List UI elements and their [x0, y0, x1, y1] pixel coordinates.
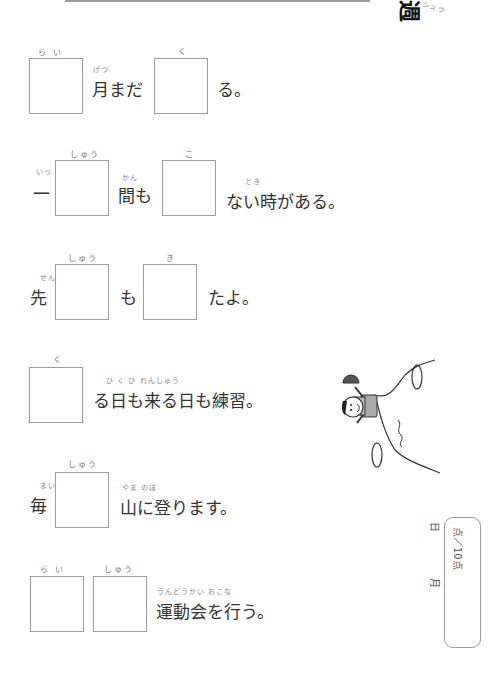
text-ruby: うんどうかい おこな: [157, 586, 232, 596]
title-ruby: シュウ: [421, 0, 447, 16]
sentence-text: 山に登ります。: [120, 494, 237, 519]
answer-box[interactable]: [93, 576, 147, 632]
sentence-text: る。: [217, 76, 251, 101]
box-ruby: く: [53, 353, 63, 364]
top-divider: [65, 0, 370, 2]
box-ruby: く: [178, 45, 188, 56]
answer-box[interactable]: [55, 160, 109, 216]
prefix-ruby: せん: [40, 272, 56, 282]
answer-box[interactable]: [30, 576, 84, 632]
answer-box[interactable]: [55, 264, 109, 320]
question-row-6: ら い しゅう うんどうかい おこな 運動会を行う。: [0, 560, 497, 640]
text-ruby: やま のぼ: [122, 482, 157, 492]
text-ruby: ひ く ひ れんしゅう: [106, 375, 180, 385]
sentence-text: る日も来る日も練習。: [93, 387, 263, 412]
sentence-text: も: [120, 284, 137, 309]
answer-box[interactable]: [29, 367, 83, 423]
box-ruby: しゅう: [70, 148, 100, 159]
box-ruby: き: [166, 252, 176, 263]
sentence-prefix: 先: [30, 284, 47, 309]
box-ruby: ら い: [38, 46, 63, 57]
box-ruby: こ: [185, 148, 195, 159]
text-ruby: かん: [122, 172, 138, 182]
boy-on-mountain-illustration: [335, 355, 450, 475]
question-row-1: ら い げつ 月まだ く る。: [0, 38, 497, 118]
question-row-3: せん 先 しゅう も き たよ。: [0, 250, 497, 330]
answer-box[interactable]: [29, 58, 83, 114]
box-ruby: しゅう: [104, 563, 134, 574]
answer-box[interactable]: [55, 472, 109, 528]
prefix-ruby: いっ: [36, 166, 52, 176]
sentence-text: 間も: [118, 182, 152, 207]
month-label: 月: [428, 578, 443, 588]
sentence-prefix: 一: [33, 180, 50, 205]
max-points-label: ／10点: [452, 537, 463, 570]
text-ruby: げつ: [93, 64, 109, 74]
box-ruby: しゅう: [68, 458, 98, 469]
box-ruby: ら い: [40, 563, 65, 574]
prefix-ruby: まい: [40, 480, 56, 490]
sentence-prefix: 毎: [30, 492, 47, 517]
answer-box[interactable]: [154, 58, 208, 114]
question-row-2: いっ 一 しゅう かん 間も こ とき ない時がある。: [0, 150, 497, 230]
title-kanji: 週: [398, 0, 420, 22]
box-ruby: しゅう: [68, 252, 98, 263]
answer-box[interactable]: [162, 160, 216, 216]
text-ruby: とき: [245, 176, 261, 186]
sentence-text: たよ。: [208, 284, 259, 309]
points-label: 点: [452, 527, 463, 537]
answer-box[interactable]: [143, 264, 197, 320]
score-text: 点／10点: [451, 527, 466, 570]
sentence-text: ない時がある。: [226, 188, 345, 213]
sentence-text: 月まだ: [92, 76, 143, 101]
day-label: 日: [428, 522, 443, 532]
sentence-text: 運動会を行う。: [156, 598, 274, 623]
